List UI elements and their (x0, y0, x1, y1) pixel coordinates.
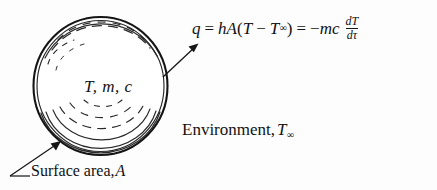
equation-convection-coefficient: h (218, 20, 227, 37)
equation-paren-close: ) (287, 20, 293, 37)
surface-area-label: Surface area,A (31, 163, 125, 179)
equation-specific-heat-symbol: c (332, 20, 340, 37)
equation-equals-first: = (205, 20, 215, 37)
equation-negative-sign: − (310, 20, 320, 37)
surface-area-label-text: Surface area, (31, 162, 115, 179)
derivative-denominator: dτ (346, 28, 358, 42)
heat-balance-equation: q = h A ( T − T∞ ) = − m c dT dτ (192, 15, 359, 41)
equation-mass-symbol: m (320, 20, 332, 37)
derivative-numerator: dT (345, 15, 360, 28)
equation-ambient-subscript: ∞ (280, 23, 287, 33)
equation-minus-sign: − (256, 20, 266, 37)
equation-temperature-symbol: T (243, 20, 252, 37)
environment-label: Environment,T∞ (182, 121, 294, 140)
environment-label-text: Environment, (182, 120, 275, 139)
sphere-properties-label: T, m, c (84, 78, 133, 95)
equation-equals-second: = (297, 20, 307, 37)
equation-area-symbol: A (227, 20, 237, 37)
environment-temperature-symbol: T (277, 120, 286, 139)
equation-ambient-temperature-symbol: T (270, 20, 279, 37)
equation-heat-rate-symbol: q (192, 20, 201, 37)
surface-area-symbol: A (116, 162, 126, 179)
environment-temperature-subscript: ∞ (287, 129, 294, 140)
heat-flux-arrow (163, 44, 199, 78)
equation-derivative-fraction: dT dτ (345, 15, 360, 41)
